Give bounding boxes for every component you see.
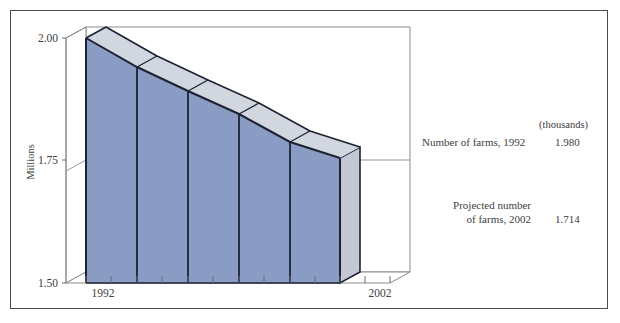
figure-root: 2.00 1.75 1.50 Millions	[0, 0, 620, 323]
area-right-side-face	[340, 147, 360, 283]
annotation-2-label-line1: Projected number	[406, 199, 531, 212]
y-axis-title: Millions	[25, 144, 36, 180]
annotation-2-label-line2: of farms, 2002	[406, 213, 531, 226]
xtick-label-2002: 2002	[369, 287, 392, 299]
ytick-label-1-50: 1.50	[38, 277, 58, 289]
xtick-label-1992: 1992	[92, 287, 115, 299]
chart-canvas: 2.00 1.75 1.50 Millions	[0, 0, 620, 323]
units-header: (thousands)	[539, 119, 588, 130]
annotation-2-value: 1.714	[555, 213, 580, 225]
ytick-label-2-00: 2.00	[38, 32, 58, 44]
ytick-label-1-75: 1.75	[38, 154, 58, 166]
plot-left-wall	[66, 27, 86, 283]
annotation-1-label: Number of farms, 1992	[422, 136, 525, 149]
annotation-1-value: 1.980	[555, 136, 580, 148]
area-chart-svg: 2.00 1.75 1.50 Millions	[0, 0, 620, 323]
